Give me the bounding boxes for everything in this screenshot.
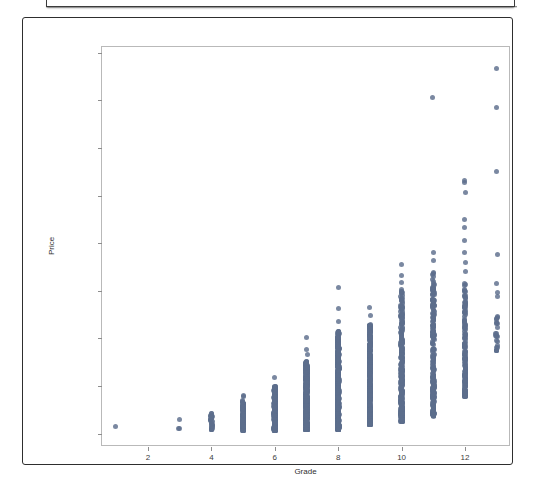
scatter-point (273, 420, 278, 425)
scatter-point (430, 385, 435, 390)
x-tick-mark (148, 447, 149, 451)
scatter-point (399, 367, 404, 372)
scatter-point (463, 260, 468, 265)
scatter-point (304, 418, 309, 423)
scatter-point (431, 250, 436, 255)
plot-area: 0100000020000003000000400000050000006000… (101, 46, 510, 446)
scatter-point (367, 305, 372, 310)
scatter-point (431, 258, 436, 263)
scatter-point (399, 312, 404, 317)
scatter-point (210, 419, 215, 424)
scatter-point (431, 318, 436, 323)
scatter-point (336, 344, 341, 349)
scatter-point (430, 95, 435, 100)
scatter-point (495, 325, 500, 330)
scatter-point (462, 225, 467, 230)
scatter-point (368, 360, 373, 365)
scatter-point (431, 342, 436, 347)
scatter-point (463, 351, 468, 356)
scatter-point (463, 360, 468, 365)
scatter-point (305, 352, 310, 357)
scatter-point (432, 303, 437, 308)
scatter-point (367, 326, 372, 331)
scatter-point (303, 361, 308, 366)
scatter-point (463, 365, 468, 370)
scatter-point (336, 423, 341, 428)
scatter-point (399, 280, 404, 285)
x-tick-label: 8 (336, 453, 340, 462)
scatter-point (494, 338, 499, 343)
scatter-point (494, 348, 499, 353)
scatter-point (463, 391, 468, 396)
scatter-point (400, 319, 405, 324)
scatter-point (462, 250, 467, 255)
scatter-point (399, 390, 404, 395)
scatter-point (241, 413, 246, 418)
y-tick-mark (98, 100, 102, 101)
scatter-points-layer (102, 47, 509, 445)
scatter-point (430, 330, 435, 335)
scatter-point (495, 321, 500, 326)
x-tick-mark (275, 447, 276, 451)
figure-frame: Price 0100000020000003000000400000050000… (22, 17, 513, 465)
y-tick-mark (98, 434, 102, 435)
scatter-point (177, 417, 182, 422)
scatter-point (462, 217, 467, 222)
x-tick-mark (465, 447, 466, 451)
scatter-point (304, 423, 309, 428)
scatter-point (368, 407, 373, 412)
scatter-point (399, 273, 404, 278)
scatter-point (336, 388, 341, 393)
scatter-point (368, 313, 373, 318)
x-tick-mark (211, 447, 212, 451)
scatter-point (494, 105, 499, 110)
scatter-point (367, 353, 372, 358)
scatter-point (335, 364, 340, 369)
scatter-point (113, 424, 118, 429)
scatter-point (430, 287, 435, 292)
scatter-point (241, 428, 246, 433)
y-axis-label: Price (47, 237, 56, 255)
scatter-point (463, 312, 468, 317)
x-tick-label: 2 (146, 453, 150, 462)
scatter-point (368, 335, 373, 340)
scatter-point (336, 319, 341, 324)
x-tick-label: 4 (209, 453, 213, 462)
y-axis-label-wrapper: Price (54, 46, 64, 446)
scatter-point (399, 348, 404, 353)
y-tick-mark (98, 196, 102, 197)
scatter-point (337, 379, 342, 384)
scatter-point (463, 269, 468, 274)
x-tick-mark (338, 447, 339, 451)
y-tick-mark (98, 386, 102, 387)
y-tick-mark (98, 338, 102, 339)
scatter-point (494, 66, 499, 71)
scatter-point (367, 388, 372, 393)
scatter-point (462, 238, 467, 243)
scatter-point (494, 169, 499, 174)
scatter-point (463, 190, 468, 195)
scatter-point (431, 368, 436, 373)
x-tick-label: 10 (397, 453, 406, 462)
scatter-point (241, 393, 246, 398)
y-tick-mark (98, 148, 102, 149)
x-tick-mark (402, 447, 403, 451)
scatter-point (463, 282, 468, 287)
scatter-point (462, 385, 467, 390)
scatter-point (367, 347, 372, 352)
y-tick-mark (98, 243, 102, 244)
x-tick-label: 6 (273, 453, 277, 462)
scatter-point (494, 281, 499, 286)
scatter-point (462, 305, 467, 310)
scatter-point (272, 375, 277, 380)
scatter-point (463, 332, 468, 337)
y-tick-mark (98, 53, 102, 54)
x-axis-label: Grade (101, 467, 510, 476)
scatter-point (495, 252, 500, 257)
x-tick-label: 12 (461, 453, 470, 462)
y-tick-mark (98, 291, 102, 292)
scatter-point (430, 362, 435, 367)
scatter-point (336, 352, 341, 357)
scatter-point (336, 285, 341, 290)
scatter-point (462, 342, 467, 347)
